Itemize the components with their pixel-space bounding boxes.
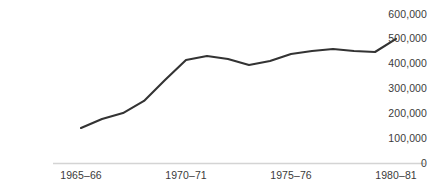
y-axis-tick-label: 500,000 [373,33,427,44]
y-axis-tick-label: 200,000 [373,108,427,119]
x-axis-tick-label: 1965–66 [60,170,102,181]
line-chart: 0100,000200,000300,000400,000500,000600,… [0,0,427,192]
chart-canvas [0,0,427,192]
y-axis-tick-label: 300,000 [373,83,427,94]
y-axis-tick-label: 400,000 [373,58,427,69]
y-axis-tick-label: 600,000 [373,9,427,20]
y-axis-tick-label: 100,000 [373,133,427,144]
y-axis-tick-label: 0 [373,158,427,169]
x-axis-tick-label: 1970–71 [165,170,207,181]
data-series-line [81,39,396,128]
x-axis-tick-label: 1975–76 [270,170,312,181]
x-axis-tick-label: 1980–81 [375,170,417,181]
